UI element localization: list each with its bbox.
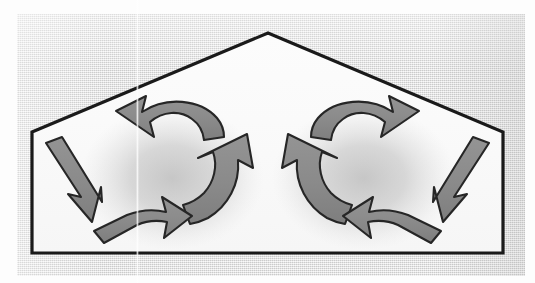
figure-page: Attic air circulation diagram Cross-sect… (0, 0, 535, 283)
attic-circulation-illustration (0, 0, 535, 283)
